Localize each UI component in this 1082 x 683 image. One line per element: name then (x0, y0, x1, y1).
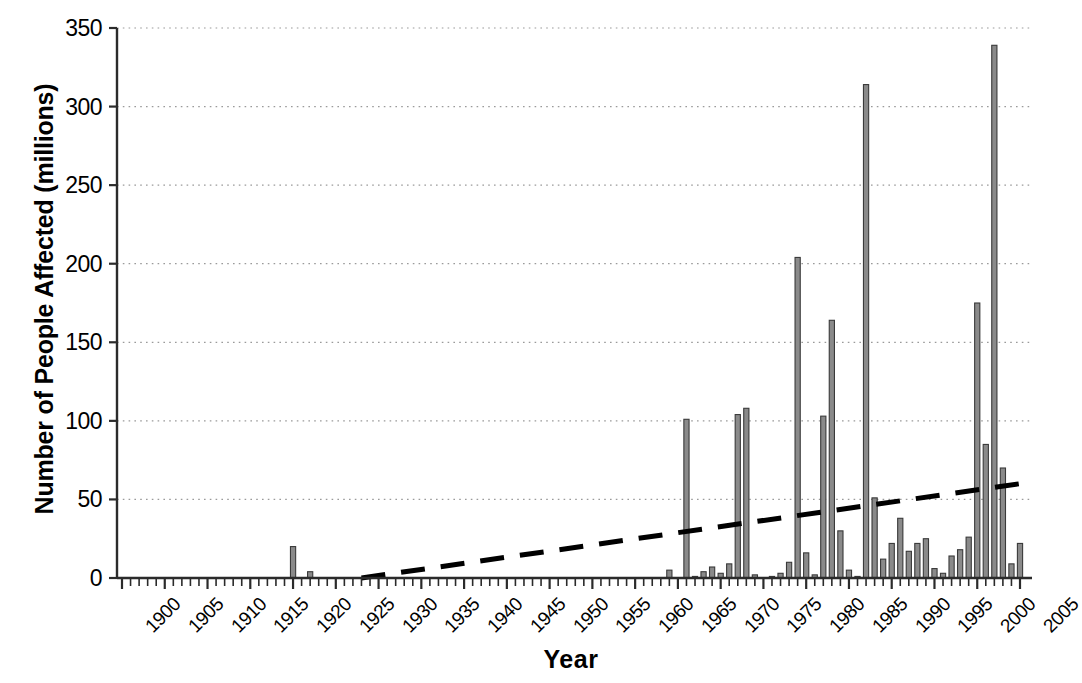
x-tick-label: 1985 (869, 594, 911, 636)
x-tick-label: 1990 (912, 594, 954, 636)
x-tick-label: 1945 (527, 594, 569, 636)
x-tick-label: 1960 (655, 594, 697, 636)
x-tick-label: 1900 (142, 594, 184, 636)
x-tick-label: 1980 (826, 594, 868, 636)
x-tick-label: 1965 (698, 594, 740, 636)
x-tick-label: 1935 (441, 594, 483, 636)
x-tick-label: 1920 (313, 594, 355, 636)
x-tick-label: 2000 (997, 594, 1039, 636)
x-tick-label: 1950 (569, 594, 611, 636)
x-tick-label: 1905 (185, 594, 227, 636)
x-tick-label: 1970 (740, 594, 782, 636)
x-tick-label: 1955 (612, 594, 654, 636)
x-axis-title: Year (117, 645, 1025, 674)
x-tick-label: 1925 (356, 594, 398, 636)
x-tick-label: 1940 (484, 594, 526, 636)
x-tick-label: 1915 (270, 594, 312, 636)
x-tick-label: 1975 (783, 594, 825, 636)
x-tick-label: 2005 (1040, 594, 1082, 636)
x-tick-label: 1995 (954, 594, 996, 636)
x-tick-label: 1910 (227, 594, 269, 636)
x-tick-label: 1930 (398, 594, 440, 636)
